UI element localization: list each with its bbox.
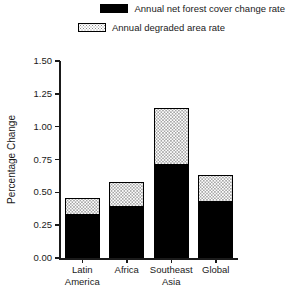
x-axis-category-label-line: Global (194, 264, 239, 276)
x-axis-line (59, 258, 238, 260)
legend-item-degraded-area: Annual degraded area rate (0, 22, 289, 33)
y-axis-tick-label: 1.00 (34, 122, 53, 132)
bar-africa (109, 182, 144, 258)
y-axis-tick (55, 60, 60, 62)
bar-southeast-asia (154, 108, 189, 258)
bar-segment-degraded-area (65, 198, 100, 215)
x-axis-category-label: SoutheastAsia (149, 264, 194, 287)
x-axis-category-label-line: Asia (149, 276, 194, 288)
y-axis-tick (55, 192, 60, 194)
y-axis-title: Percentage Change (5, 61, 19, 258)
x-axis-category-label: Africa (105, 264, 150, 276)
x-axis-category-label-line: Latin (60, 264, 105, 276)
x-axis-category-label: LatinAmerica (60, 264, 105, 287)
bar-chart-figure: Annual net forest cover change rate Annu… (0, 0, 289, 296)
x-axis-category-label-line: Southeast (149, 264, 194, 276)
y-axis-tick (55, 126, 60, 128)
x-axis-category-labels: LatinAmericaAfricaSoutheastAsiaGlobal (60, 264, 238, 294)
x-axis-tick (82, 258, 84, 263)
x-axis-tick (126, 258, 128, 263)
bar-segment-net-forest-cover-change (198, 202, 233, 258)
y-axis-tick-label: 1.50 (34, 56, 53, 66)
bar-segment-degraded-area (154, 108, 189, 164)
x-axis-tick (215, 258, 217, 263)
y-axis-tick (55, 257, 60, 259)
solid-black-swatch-icon (100, 4, 128, 13)
x-axis-tick (171, 258, 173, 263)
y-axis-tick-label: 0.75 (34, 155, 53, 165)
x-axis-category-label-line: Africa (105, 264, 150, 276)
plot-area: 1.501.251.000.750.500.250.00 (60, 61, 238, 258)
y-axis-tick (55, 93, 60, 95)
chart-legend: Annual net forest cover change rate Annu… (0, 0, 289, 33)
bar-global (198, 175, 233, 258)
x-axis-category-label-line: America (60, 276, 105, 288)
dotted-white-swatch-icon (78, 23, 106, 32)
bar-segment-net-forest-cover-change (154, 165, 189, 258)
y-axis-tick (55, 224, 60, 226)
y-axis-tick-label: 0.25 (34, 220, 53, 230)
legend-item-net-forest-cover-change: Annual net forest cover change rate (0, 3, 289, 14)
bar-segment-degraded-area (109, 182, 144, 207)
y-axis-tick (55, 159, 60, 161)
bar-segment-degraded-area (198, 175, 233, 201)
bar-segment-net-forest-cover-change (65, 215, 100, 258)
legend-label-net-forest-cover-change: Annual net forest cover change rate (134, 3, 285, 14)
legend-label-degraded-area: Annual degraded area rate (112, 22, 225, 33)
bar-latin-america (65, 198, 100, 258)
y-axis-tick-label: 1.25 (34, 89, 53, 99)
y-axis-tick-label: 0.00 (34, 253, 53, 263)
x-axis-category-label: Global (194, 264, 239, 276)
y-axis-tick-label: 0.50 (34, 188, 53, 198)
bar-segment-net-forest-cover-change (109, 207, 144, 258)
